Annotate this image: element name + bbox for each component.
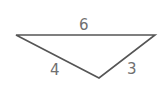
- side-label-left: 4: [50, 61, 60, 79]
- side-label-right: 3: [127, 60, 137, 78]
- side-label-top: 6: [79, 16, 89, 34]
- triangle-diagram: 6 4 3: [0, 0, 165, 85]
